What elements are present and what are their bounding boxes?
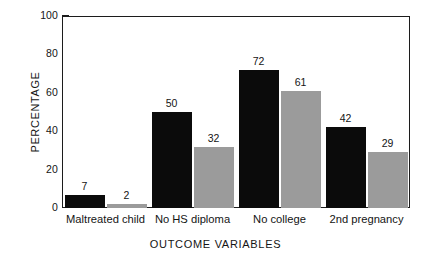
x-axis-category-label: Maltreated child [62,213,149,225]
bar-value-label: 50 [152,98,192,109]
x-axis-title: OUTCOME VARIABLES [0,238,431,250]
y-axis-tick-label-wrap: 100 [26,10,58,21]
y-axis-tick-label: 0 [26,202,58,213]
bars-layer [62,16,410,208]
y-axis-tick-label: 100 [26,10,58,21]
y-axis-tick-label-wrap: 0 [26,202,58,213]
y-axis-tick-label: 20 [26,164,58,175]
bar [368,152,408,208]
bar-value-label: 2 [107,190,147,201]
y-axis-tick-label-wrap: 60 [26,87,58,98]
bar-value-label: 42 [326,113,366,124]
y-axis-tick-label: 80 [26,48,58,59]
bar [194,147,234,208]
y-axis-title: PERCENTAGE [29,47,41,177]
bar-value-label: 72 [239,56,279,67]
bar [326,127,366,208]
y-axis-tick-label-wrap: 40 [26,125,58,136]
bar-chart: PERCENTAGE 100806040200 72503272614229 M… [0,0,431,263]
y-axis-tick-label-wrap: 80 [26,48,58,59]
bar-value-label: 32 [194,133,234,144]
bar [239,70,279,208]
bar [65,195,105,208]
x-axis-category-label: No college [236,213,323,225]
bar-value-label: 29 [368,138,408,149]
y-axis-tick-label-wrap: 20 [26,164,58,175]
y-axis-tick-label: 60 [26,87,58,98]
y-axis-title-container: PERCENTAGE [14,16,30,208]
bar [152,112,192,208]
bar [107,204,147,208]
y-axis-tick-label: 40 [26,125,58,136]
bar-value-label: 7 [65,181,105,192]
bar-value-label: 61 [281,77,321,88]
x-axis-category-label: 2nd pregnancy [323,213,410,225]
bar [281,91,321,208]
x-axis-category-label: No HS diploma [149,213,236,225]
